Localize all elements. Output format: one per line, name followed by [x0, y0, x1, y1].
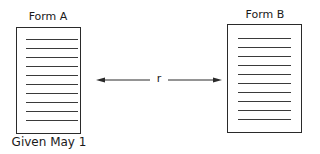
arrowhead-right-icon	[213, 78, 222, 83]
connector-label: r	[152, 72, 166, 85]
arrowhead-left-icon	[96, 78, 105, 83]
